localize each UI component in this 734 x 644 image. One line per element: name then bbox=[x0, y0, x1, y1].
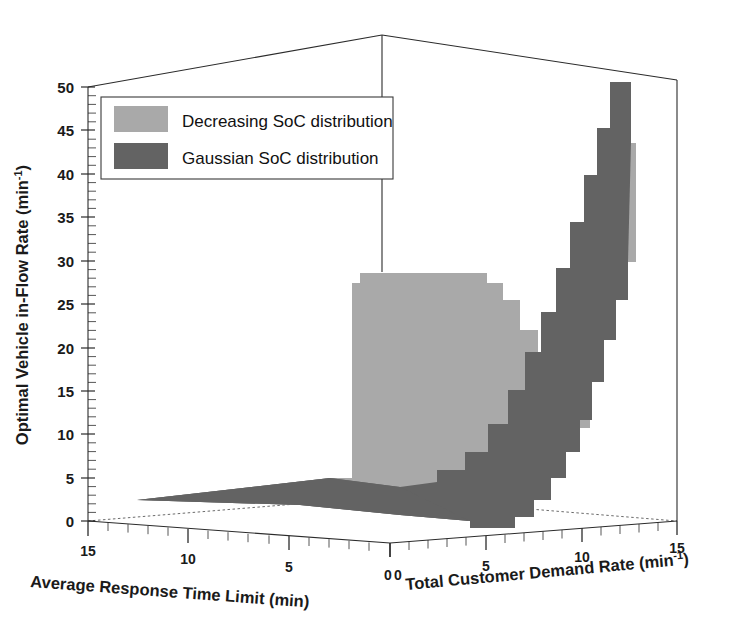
x-tick-15: 15 bbox=[80, 543, 96, 559]
z-tick-40: 40 bbox=[57, 166, 74, 183]
z-axis-title-exponent: -1 bbox=[12, 170, 24, 180]
z-axis-title-main: Optimal Vehicle in-Flow Rate (min bbox=[13, 180, 31, 445]
z-axis-tick-labels: 50 45 40 35 30 25 20 15 10 5 0 bbox=[57, 79, 74, 530]
z-tick-0: 0 bbox=[66, 513, 74, 530]
surface-plot-figure: 50 45 40 35 30 25 20 15 10 5 0 Optimal V… bbox=[0, 0, 734, 644]
y-axis-major-ticks bbox=[390, 521, 677, 557]
z-tick-50: 50 bbox=[57, 79, 74, 96]
legend-label-decreasing: Decreasing SoC distribution bbox=[182, 112, 393, 131]
z-tick-5: 5 bbox=[66, 470, 74, 487]
frame-floor-right-edge bbox=[390, 521, 677, 543]
x-axis-minor-ticks bbox=[108, 523, 369, 551]
z-tick-15: 15 bbox=[57, 383, 74, 400]
y-axis-title: Total Customer Demand Rate (min-1) bbox=[405, 548, 690, 593]
x-tick-10: 10 bbox=[180, 551, 196, 567]
frame-top-right-edge bbox=[382, 35, 677, 80]
z-tick-25: 25 bbox=[57, 296, 74, 313]
z-tick-10: 10 bbox=[57, 426, 74, 443]
legend-swatch-decreasing bbox=[114, 106, 168, 132]
z-axis-title-tail: ) bbox=[13, 165, 31, 171]
z-axis-title: Optimal Vehicle in-Flow Rate (min-1) bbox=[12, 165, 31, 445]
y-axis-minor-ticks bbox=[409, 523, 658, 551]
frame-top-left-edge bbox=[88, 35, 382, 87]
z-tick-20: 20 bbox=[57, 340, 74, 357]
y-axis-title-tail: ) bbox=[683, 549, 690, 567]
x-tick-5: 5 bbox=[285, 559, 293, 575]
y-axis-title-main: Total Customer Demand Rate (min bbox=[405, 551, 675, 593]
z-tick-35: 35 bbox=[57, 209, 74, 226]
z-tick-45: 45 bbox=[57, 122, 74, 139]
x-axis-response-time: 15 10 5 0 Average Response Time Limit (m… bbox=[30, 521, 392, 610]
z-tick-30: 30 bbox=[57, 253, 74, 270]
legend[interactable]: Decreasing SoC distribution Gaussian SoC… bbox=[101, 97, 393, 179]
frame-floor-left-edge bbox=[88, 521, 390, 543]
x-tick-0: 0 bbox=[384, 567, 392, 583]
y-tick-0: 0 bbox=[394, 567, 402, 583]
legend-swatch-gaussian bbox=[114, 143, 168, 169]
x-axis-major-ticks bbox=[88, 521, 390, 557]
z-axis: 50 45 40 35 30 25 20 15 10 5 0 Optimal V… bbox=[12, 79, 96, 530]
x-axis-tick-labels: 15 10 5 0 bbox=[80, 543, 392, 583]
x-axis-title: Average Response Time Limit (min) bbox=[30, 572, 310, 610]
legend-label-gaussian: Gaussian SoC distribution bbox=[182, 149, 379, 168]
